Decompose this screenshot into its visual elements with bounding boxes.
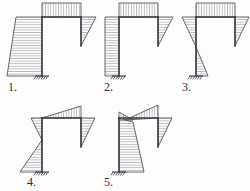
frame-option-5: 5. <box>104 105 172 189</box>
fixed-support-symbol <box>34 172 49 175</box>
left-column-moment-region-hatch <box>105 17 119 76</box>
left-column-moment-region-hatch <box>119 118 144 172</box>
option-label-5: 5. <box>104 175 113 189</box>
option-label-4: 4. <box>27 175 36 189</box>
option-label-3: 3. <box>182 80 191 94</box>
fixed-support-symbol <box>188 76 203 79</box>
options-layer: 1.2.3.4.5. <box>7 3 249 189</box>
left-column-moment-region-hatch <box>7 17 42 76</box>
beam-moment-region-hatch <box>42 3 81 17</box>
option-label-1: 1. <box>8 80 17 94</box>
option-label-2: 2. <box>104 80 113 94</box>
beam-moment-region-hatch <box>119 3 158 17</box>
support-hatch-tick <box>34 76 36 79</box>
frame-option-4: 4. <box>20 106 95 189</box>
support-hatch-tick <box>188 76 190 79</box>
frame-option-2: 2. <box>104 3 173 94</box>
frame-option-1: 1. <box>7 3 96 94</box>
support-hatch-tick <box>111 76 113 79</box>
bending-moment-figure: 1.2.3.4.5. <box>0 0 250 191</box>
beam-moment-region-hatch <box>196 3 235 17</box>
figure-canvas: 1.2.3.4.5. <box>0 0 250 191</box>
frame-option-3: 3. <box>182 3 249 94</box>
fixed-support-symbol <box>111 172 126 175</box>
fixed-support-symbol <box>111 76 126 79</box>
fixed-support-symbol <box>34 76 49 79</box>
